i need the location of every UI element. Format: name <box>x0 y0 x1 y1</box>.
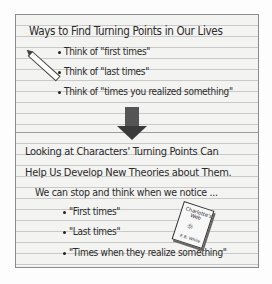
bullet-icon <box>63 211 66 214</box>
bullet-icon <box>58 51 61 54</box>
intro-text: We can stop and think when we notice ... <box>35 186 218 198</box>
arrow-head-icon <box>117 126 147 140</box>
section-heading-line1: Looking at Characters' Turning Points Ca… <box>25 145 219 158</box>
bullet-icon <box>63 252 66 255</box>
list-item: "First times" <box>63 206 120 217</box>
spider-icon: ☼ <box>185 221 195 232</box>
list-item: Think of "times you realized something" <box>58 86 233 97</box>
list-item-text: "First times" <box>69 206 120 217</box>
bullet-icon <box>58 91 61 94</box>
list-item: Think of "last times" <box>58 66 149 77</box>
list-item-text: Think of "first times" <box>64 46 150 57</box>
list-item-text: "Times when they realize something" <box>69 247 227 258</box>
section-heading-line2: Help Us Develop New Theories about Them. <box>25 166 231 179</box>
list-item-text: Think of "last times" <box>64 66 149 77</box>
list-item: "Last times" <box>63 226 120 237</box>
list-item-text: Think of "times you realized something" <box>64 86 233 97</box>
bullet-icon <box>63 231 66 234</box>
bullet-icon <box>58 71 61 74</box>
book-author: E.B. White <box>179 233 200 244</box>
list-item: Think of "first times" <box>58 46 150 57</box>
list-item-text: "Last times" <box>69 226 120 237</box>
chart-title: Ways to Find Turning Points in Our Lives <box>29 24 223 38</box>
arrow-down-icon <box>125 107 139 127</box>
